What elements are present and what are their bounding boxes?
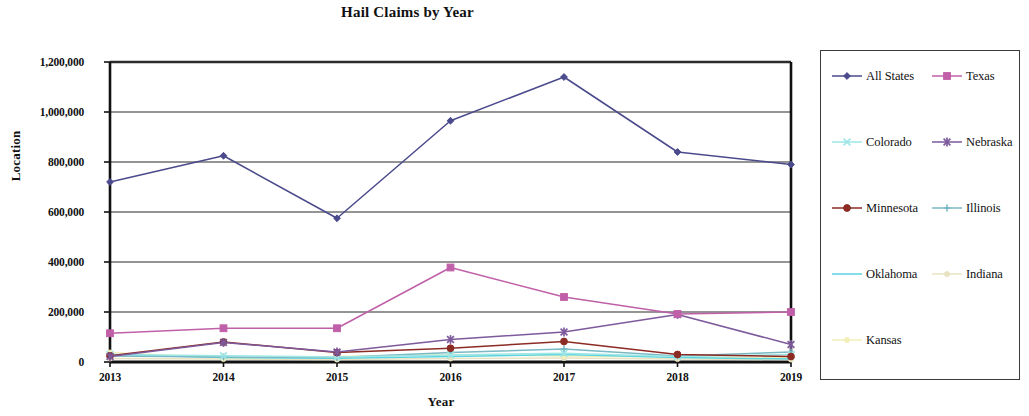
legend-item-texas[interactable]: Texas [931,67,994,85]
legend-marker-minnesota-icon [831,200,863,216]
data-point-texas [107,330,114,337]
series-texas [107,264,795,337]
data-point-illinois [944,205,951,212]
data-point-texas [447,264,454,271]
chart-legend: All StatesTexasColoradoNebraskaMinnesota… [820,50,1020,380]
legend-label-colorado: Colorado [866,135,912,150]
legend-label-indiana: Indiana [966,267,1003,282]
series-line-all-states [110,77,791,218]
data-point-texas [334,325,341,332]
legend-marker-nebraska-icon [931,134,963,150]
legend-item-nebraska[interactable]: Nebraska [931,133,1012,151]
legend-item-kansas[interactable]: Kansas [831,331,902,349]
data-point-minnesota [844,205,851,212]
legend-marker-all-states-icon [831,68,863,84]
data-point-kansas [844,337,849,342]
data-point-minnesota [561,338,568,345]
legend-label-texas: Texas [966,69,994,84]
data-point-minnesota [447,345,454,352]
legend-marker-indiana-icon [931,266,963,282]
legend-marker-illinois-icon [931,200,963,216]
data-point-texas [674,311,681,318]
data-point-all-states [220,152,227,159]
legend-label-kansas: Kansas [866,333,902,348]
data-point-texas [561,294,568,301]
hail-claims-chart: Hail Claims by Year Location Year 0200,0… [0,0,1029,416]
legend-item-indiana[interactable]: Indiana [931,265,1003,283]
legend-item-illinois[interactable]: Illinois [931,199,1001,217]
data-point-minnesota [674,351,681,358]
legend-item-all-states[interactable]: All States [831,67,914,85]
data-point-all-states [844,73,851,80]
legend-item-oklahoma[interactable]: Oklahoma [831,265,917,283]
data-point-texas [788,309,795,316]
legend-label-minnesota: Minnesota [866,201,918,216]
legend-marker-kansas-icon [831,332,863,348]
data-point-minnesota [788,353,795,360]
legend-label-oklahoma: Oklahoma [866,267,917,282]
data-point-texas [220,325,227,332]
data-point-indiana [944,271,949,276]
legend-item-colorado[interactable]: Colorado [831,133,912,151]
legend-label-all-states: All States [866,69,914,84]
legend-label-nebraska: Nebraska [966,135,1012,150]
legend-label-illinois: Illinois [966,201,1001,216]
legend-marker-texas-icon [931,68,963,84]
data-point-all-states [107,179,114,186]
series-all-states [107,74,795,222]
data-point-texas [944,73,951,80]
series-line-texas [110,268,791,334]
legend-marker-colorado-icon [831,134,863,150]
legend-item-minnesota[interactable]: Minnesota [831,199,918,217]
legend-marker-oklahoma-icon [831,266,863,282]
